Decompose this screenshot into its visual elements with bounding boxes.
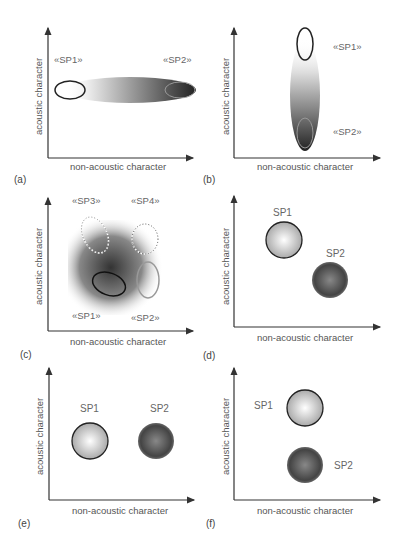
panel-label-c: (c) — [20, 349, 32, 360]
y-axis-label-e: acoustic character — [34, 398, 45, 475]
y-axis-label-d: acoustic character — [220, 228, 231, 305]
species-label-f-sp2: SP2 — [334, 460, 353, 471]
species-label-a-sp2: «SP2» — [163, 54, 192, 65]
panel-c-graphics — [48, 198, 193, 331]
x-axis-label-e: non-acoustic character — [72, 505, 168, 516]
species-label-e-sp1: SP1 — [80, 403, 99, 414]
panel-label-e: (e) — [18, 518, 30, 529]
panel-label-d: (d) — [203, 350, 215, 361]
species-label-d-sp1: SP1 — [273, 207, 292, 218]
species-label-c-sp2: «SP2» — [131, 312, 160, 323]
species-label-e-sp2: SP2 — [150, 403, 169, 414]
species-label-d-sp2: SP2 — [326, 248, 345, 259]
y-axis-label-b: acoustic character — [220, 58, 231, 135]
panel-d-graphics — [234, 196, 380, 327]
species-label-a-sp1: «SP1» — [54, 54, 83, 65]
y-axis-label-c: acoustic character — [33, 228, 44, 305]
panel-label-b: (b) — [203, 174, 215, 185]
x-axis-label-c: non-acoustic character — [70, 336, 166, 347]
panel-f-graphics — [234, 368, 380, 500]
x-axis-label-a: non-acoustic character — [70, 161, 166, 172]
x-axis-label-b: non-acoustic character — [257, 161, 353, 172]
x-axis-label-d: non-acoustic character — [257, 332, 353, 343]
species-label-b-sp2: «SP2» — [333, 126, 362, 137]
species-label-c-sp1: «SP1» — [72, 310, 101, 321]
species-label-b-sp1: «SP1» — [333, 41, 362, 52]
species-label-f-sp1: SP1 — [254, 400, 273, 411]
species-label-c-sp3: «SP3» — [72, 195, 101, 206]
panel-label-f: (f) — [206, 518, 215, 529]
species-label-c-sp4: «SP4» — [131, 195, 160, 206]
y-axis-label-f: acoustic character — [220, 398, 231, 475]
panel-e-graphics — [49, 368, 194, 500]
panel-a-graphics — [48, 28, 196, 158]
x-axis-label-f: non-acoustic character — [257, 505, 353, 516]
panel-label-a: (a) — [14, 174, 26, 185]
y-axis-label-a: acoustic character — [33, 58, 44, 135]
